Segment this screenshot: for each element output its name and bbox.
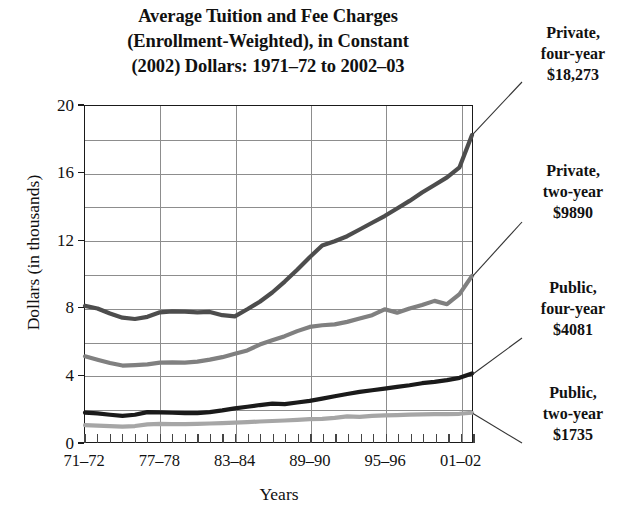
callout-private-two-year-line-2: two-year (508, 181, 638, 202)
callout-public-two-year-value: $1735 (508, 424, 638, 445)
callout-public-four-year-line-2: four-year (508, 298, 638, 319)
leader-line (473, 222, 522, 276)
callout-private-two-year: Private, two-year $9890 (508, 160, 638, 223)
callout-public-two-year-line-1: Public, (508, 382, 638, 403)
callout-public-four-year-value: $4081 (508, 319, 638, 340)
callout-public-two-year-line-2: two-year (508, 403, 638, 424)
callout-private-two-year-line-1: Private, (508, 160, 638, 181)
callout-private-two-year-value: $9890 (508, 202, 638, 223)
chart-figure: Average Tuition and Fee Charges (Enrollm… (0, 0, 644, 518)
callout-public-four-year: Public, four-year $4081 (508, 277, 638, 340)
callout-private-four-year: Private, four-year $18,273 (508, 22, 638, 85)
callout-public-four-year-line-1: Public, (508, 277, 638, 298)
leader-line (473, 82, 522, 134)
callout-private-four-year-line-1: Private, (508, 22, 638, 43)
callout-private-four-year-line-2: four-year (508, 43, 638, 64)
leader-line (473, 338, 522, 374)
callout-private-four-year-value: $18,273 (508, 64, 638, 85)
callout-public-two-year: Public, two-year $1735 (508, 382, 638, 445)
